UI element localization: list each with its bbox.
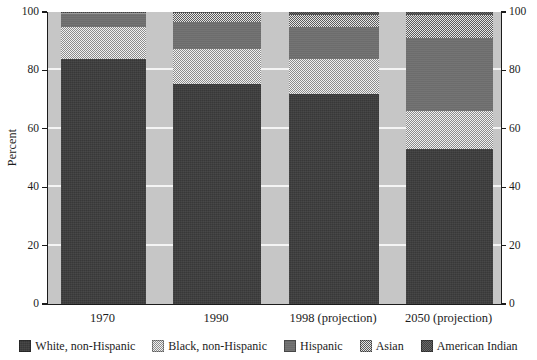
legend-item-hispanic[interactable]: Hispanic <box>284 340 343 352</box>
tick-mark-left-40 <box>42 187 47 188</box>
y-tick-label-right-60: 60 <box>509 123 537 135</box>
bar-segment-hispanic <box>406 38 493 111</box>
tick-mark-right-0 <box>501 303 506 304</box>
bar-segment-hispanic <box>289 27 379 59</box>
bar-2050-projection- <box>406 12 493 304</box>
bar-segment-black-non-hispanic <box>61 27 146 59</box>
bar-segment-american-indian <box>173 12 261 13</box>
bar-segment-asian <box>406 15 493 38</box>
bar-segment-asian <box>173 13 261 22</box>
tick-mark-right-20 <box>501 245 506 246</box>
legend-item-black-non-hispanic[interactable]: Black, non-Hispanic <box>152 340 267 352</box>
bar-segment-white-non-hispanic <box>61 59 146 304</box>
chart-legend: White, non-HispanicBlack, non-HispanicHi… <box>0 336 537 356</box>
y-tick-label-left-60: 60 <box>0 123 39 135</box>
bar-segment-black-non-hispanic <box>173 49 261 84</box>
tick-mark-left-20 <box>42 245 47 246</box>
tick-mark-left-0 <box>42 303 47 304</box>
tick-mark-right-60 <box>501 128 506 129</box>
bar-segment-hispanic <box>61 13 146 26</box>
tick-mark-right-40 <box>501 187 506 188</box>
y-tick-label-right-0: 0 <box>509 298 537 310</box>
bar-segment-asian <box>61 13 146 14</box>
legend-label-1: Black, non-Hispanic <box>168 340 267 352</box>
y-tick-label-right-80: 80 <box>509 64 537 76</box>
bar-segment-white-non-hispanic <box>289 94 379 304</box>
tick-mark-right-100 <box>501 11 506 12</box>
legend-label-3: Asian <box>376 340 404 352</box>
y-tick-label-left-80: 80 <box>0 64 39 76</box>
bar-segment-white-non-hispanic <box>406 149 493 304</box>
tick-mark-right-80 <box>501 70 506 71</box>
bar-segment-black-non-hispanic <box>289 59 379 94</box>
bar-segment-asian <box>289 15 379 27</box>
bar-1990 <box>173 12 261 304</box>
y-tick-label-left-100: 100 <box>0 6 39 18</box>
legend-swatch-icon-3 <box>360 340 372 352</box>
y-tick-label-left-0: 0 <box>0 298 39 310</box>
tick-mark-left-100 <box>42 11 47 12</box>
bar-1970 <box>61 12 146 304</box>
legend-item-asian[interactable]: Asian <box>360 340 404 352</box>
bar-segment-hispanic <box>173 22 261 48</box>
tick-mark-left-80 <box>42 70 47 71</box>
y-axis-title: Percent <box>5 103 20 193</box>
x-axis-label-3: 2050 (projection) <box>379 311 519 326</box>
legend-swatch-icon-4 <box>421 340 433 352</box>
y-tick-label-left-20: 20 <box>0 240 39 252</box>
bar-segment-white-non-hispanic <box>173 84 261 304</box>
y-tick-label-left-40: 40 <box>0 181 39 193</box>
bar-1998-projection- <box>289 12 379 304</box>
legend-swatch-icon-1 <box>152 340 164 352</box>
legend-item-american-indian[interactable]: American Indian <box>421 340 518 352</box>
y-tick-label-right-100: 100 <box>509 6 537 18</box>
legend-swatch-icon-0 <box>19 340 31 352</box>
legend-swatch-icon-2 <box>284 340 296 352</box>
bar-segment-american-indian <box>406 12 493 15</box>
tick-mark-left-60 <box>42 128 47 129</box>
stacked-bar-chart: Percent 002020404060608080100100 White, … <box>0 0 537 360</box>
bar-segment-black-non-hispanic <box>406 111 493 149</box>
y-tick-label-right-20: 20 <box>509 240 537 252</box>
y-tick-label-right-40: 40 <box>509 181 537 193</box>
bar-segment-american-indian <box>61 12 146 13</box>
legend-item-white-non-hispanic[interactable]: White, non-Hispanic <box>19 340 135 352</box>
bar-segment-american-indian <box>289 12 379 15</box>
plot-area <box>47 12 502 305</box>
legend-label-4: American Indian <box>437 340 518 352</box>
legend-label-2: Hispanic <box>300 340 343 352</box>
legend-label-0: White, non-Hispanic <box>35 340 135 352</box>
